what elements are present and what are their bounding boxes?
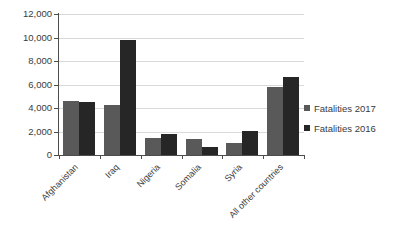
bar[interactable] bbox=[267, 87, 283, 155]
y-axis-tick bbox=[54, 14, 59, 15]
bar-group bbox=[222, 14, 263, 155]
y-axis-tick-label: 10,000 bbox=[4, 33, 52, 43]
bar[interactable] bbox=[202, 147, 218, 155]
x-axis-tick bbox=[141, 155, 142, 159]
y-axis-labels: 02,0004,0006,0008,00010,00012,000 bbox=[0, 0, 52, 237]
y-axis-tick bbox=[54, 85, 59, 86]
y-axis-tick-label: 12,000 bbox=[4, 9, 52, 19]
bar[interactable] bbox=[63, 101, 79, 155]
y-axis-tick-label: 8,000 bbox=[4, 56, 52, 66]
bar[interactable] bbox=[283, 77, 299, 155]
x-axis-tick bbox=[182, 155, 183, 159]
y-axis-tick-label: 4,000 bbox=[4, 103, 52, 113]
y-axis-tick bbox=[54, 132, 59, 133]
bar-group bbox=[59, 14, 100, 155]
x-axis-category-label: Somalia bbox=[173, 162, 203, 192]
legend-label-2016: Fatalities 2016 bbox=[314, 123, 376, 134]
x-axis-tick bbox=[59, 155, 60, 159]
x-axis-tick bbox=[222, 155, 223, 159]
legend-swatch-2016 bbox=[304, 125, 310, 131]
legend-item-2017[interactable]: Fatalities 2017 bbox=[304, 98, 403, 118]
bar-group bbox=[263, 14, 304, 155]
bar[interactable] bbox=[161, 134, 177, 155]
bar-group bbox=[100, 14, 141, 155]
bar[interactable] bbox=[145, 138, 161, 155]
y-axis-tick-label: 2,000 bbox=[4, 127, 52, 137]
x-axis-tick bbox=[304, 155, 305, 159]
plot-area bbox=[59, 14, 304, 155]
legend-label-2017: Fatalities 2017 bbox=[314, 103, 376, 114]
x-axis-tick bbox=[263, 155, 264, 159]
y-axis-tick bbox=[54, 61, 59, 62]
bar-group bbox=[141, 14, 182, 155]
x-axis-category-label: Nigeria bbox=[135, 162, 162, 189]
bar[interactable] bbox=[186, 139, 202, 155]
x-axis-category-label: Syria bbox=[222, 162, 244, 184]
y-axis-tick bbox=[54, 108, 59, 109]
y-axis-tick bbox=[54, 38, 59, 39]
bar[interactable] bbox=[79, 102, 95, 155]
y-axis-tick-label: 0 bbox=[4, 150, 52, 160]
legend-swatch-2017 bbox=[304, 105, 310, 111]
bar[interactable] bbox=[120, 40, 136, 155]
bar-chart: 02,0004,0006,0008,00010,00012,000 Afghan… bbox=[0, 0, 403, 237]
bar[interactable] bbox=[242, 131, 258, 155]
bar[interactable] bbox=[226, 143, 242, 155]
y-axis-tick-label: 6,000 bbox=[4, 80, 52, 90]
x-axis-category-label: Iraq bbox=[103, 162, 121, 180]
bar-group bbox=[182, 14, 223, 155]
bar[interactable] bbox=[104, 105, 120, 155]
y-axis-tick bbox=[54, 155, 59, 156]
x-axis-tick bbox=[100, 155, 101, 159]
legend-item-2016[interactable]: Fatalities 2016 bbox=[304, 118, 403, 138]
chart-legend: Fatalities 2017 Fatalities 2016 bbox=[304, 98, 403, 138]
